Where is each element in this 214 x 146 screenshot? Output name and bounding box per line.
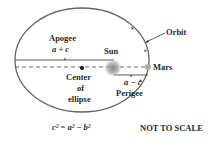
center-label-1: Center <box>66 73 91 82</box>
center-label-3: ellipse <box>68 95 91 104</box>
perigee-label: Perigee <box>116 89 143 98</box>
mars-label: Mars <box>153 63 172 72</box>
not-to-scale-note: NOT TO SCALE <box>140 124 203 133</box>
equation: c² = a² − b² <box>52 123 90 132</box>
orbit-arrow-icon <box>144 49 147 52</box>
apogee-label: Apogee <box>49 34 76 43</box>
center-dot <box>80 66 84 70</box>
mars-icon <box>145 64 151 70</box>
center-label-2: of <box>77 84 84 93</box>
sun-label: Sun <box>104 47 118 56</box>
apogee-formula: a + c <box>52 45 69 54</box>
perigee-formula: a − c <box>124 78 141 87</box>
sun-icon <box>104 59 122 77</box>
orbit-pointer <box>146 33 165 42</box>
orbit-label: Orbit <box>166 28 186 37</box>
